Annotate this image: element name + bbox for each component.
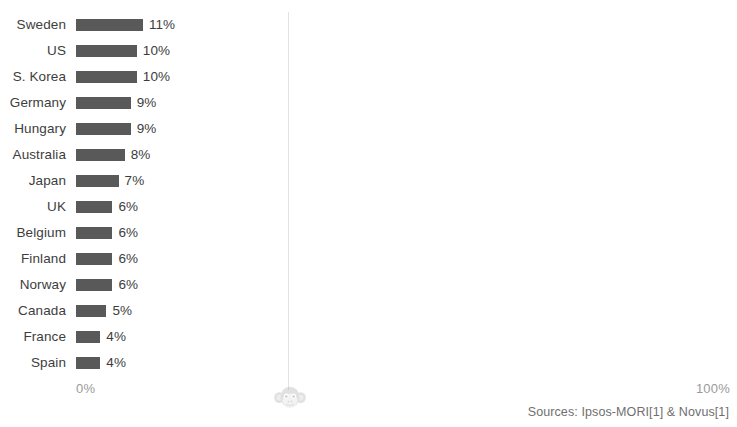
bar-value-label: 6% — [118, 194, 138, 220]
bar-value-label: 11% — [149, 12, 175, 38]
clipped-title — [8, 0, 528, 8]
bar — [76, 45, 137, 57]
bar-value-label: 9% — [137, 90, 157, 116]
bar-row: France4% — [0, 324, 737, 350]
sources-note: Sources: Ipsos-MORI[1] & Novus[1] — [528, 405, 729, 419]
category-label: Norway — [0, 272, 66, 298]
bar-value-label: 7% — [125, 168, 145, 194]
bar — [76, 305, 106, 317]
bar-chart: Sweden11%US10%S. Korea10%Germany9%Hungar… — [0, 0, 737, 427]
bar — [76, 19, 143, 31]
category-label: Australia — [0, 142, 66, 168]
bar-row: Hungary9% — [0, 116, 737, 142]
bar-row: Spain4% — [0, 350, 737, 376]
category-label: Japan — [0, 168, 66, 194]
bar-value-label: 10% — [143, 38, 170, 64]
bar — [76, 175, 119, 187]
category-label: US — [0, 38, 66, 64]
bar — [76, 279, 112, 291]
category-label: UK — [0, 194, 66, 220]
bar — [76, 227, 112, 239]
bar-value-label: 10% — [143, 64, 170, 90]
category-label: Belgium — [0, 220, 66, 246]
bar-row: Germany9% — [0, 90, 737, 116]
bar — [76, 71, 137, 83]
bar-value-label: 6% — [118, 220, 138, 246]
bar-row: Canada5% — [0, 298, 737, 324]
bar-value-label: 4% — [106, 324, 126, 350]
bar — [76, 357, 100, 369]
bar-value-label: 9% — [137, 116, 157, 142]
bar-row: Norway6% — [0, 272, 737, 298]
category-label: Finland — [0, 246, 66, 272]
bar-row: S. Korea10% — [0, 64, 737, 90]
bar-row: US10% — [0, 38, 737, 64]
monkey-face-watermark — [273, 385, 307, 409]
plot-area: Sweden11%US10%S. Korea10%Germany9%Hungar… — [0, 12, 737, 377]
bar-row: Sweden11% — [0, 12, 737, 38]
category-label: France — [0, 324, 66, 350]
bar — [76, 253, 112, 265]
category-label: Hungary — [0, 116, 66, 142]
bar-value-label: 4% — [106, 350, 126, 376]
axis-tick-min: 0% — [76, 381, 95, 396]
bar — [76, 201, 112, 213]
axis-tick-max: 100% — [696, 381, 730, 396]
bar — [76, 331, 100, 343]
bar — [76, 123, 131, 135]
bar-row: UK6% — [0, 194, 737, 220]
bar-value-label: 6% — [118, 272, 138, 298]
bar-row: Japan7% — [0, 168, 737, 194]
bar-row: Australia8% — [0, 142, 737, 168]
category-label: Canada — [0, 298, 66, 324]
bar-value-label: 6% — [118, 246, 138, 272]
bar — [76, 149, 125, 161]
category-label: Germany — [0, 90, 66, 116]
category-label: Sweden — [0, 12, 66, 38]
bar-row: Belgium6% — [0, 220, 737, 246]
bar-value-label: 8% — [131, 142, 151, 168]
bar-row: Finland6% — [0, 246, 737, 272]
category-label: Spain — [0, 350, 66, 376]
category-label: S. Korea — [0, 64, 66, 90]
bar — [76, 97, 131, 109]
bar-value-label: 5% — [112, 298, 132, 324]
